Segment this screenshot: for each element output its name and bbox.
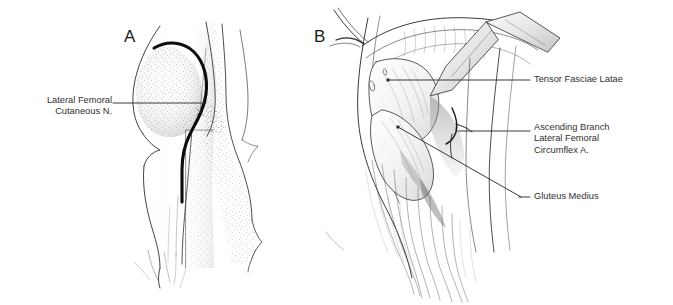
label-lateral-femoral-cutaneous-nerve: Lateral Femoral Cutaneous N.: [20, 95, 112, 118]
label-gluteus-medius: Gluteus Medius: [534, 191, 599, 202]
label-ascending-branch-lateral-femoral-circumflex-artery: Ascending Branch Lateral Femoral Circumf…: [534, 122, 609, 156]
panel-letter-a: A: [124, 27, 136, 47]
figure-container: A B Lateral Femoral Cutaneous N. Tensor …: [0, 0, 673, 305]
label-tensor-fasciae-latae: Tensor Fasciae Latae: [534, 74, 623, 85]
panel-letter-b: B: [314, 27, 326, 47]
leader-dot-gmed: [396, 125, 399, 128]
leader-dot-tfl: [386, 78, 389, 81]
